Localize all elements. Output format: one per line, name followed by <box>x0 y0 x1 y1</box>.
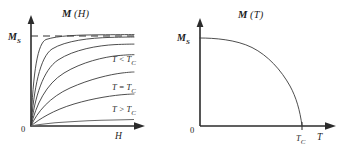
mt-x-axis-arrowhead <box>325 122 336 130</box>
mh-y-axis-arrowhead <box>28 15 35 24</box>
mh-curve-label-above-tc: T>TC <box>112 104 136 117</box>
mt-origin-label: 0 <box>190 125 194 135</box>
figure-container: M(H) MS 0 H T<TC T=TC T>TC <box>0 0 348 150</box>
mh-y-axis-label: MS <box>7 31 21 45</box>
mh-curve-label-below-tc: T<TC <box>112 54 136 67</box>
panel-mh: M(H) MS 0 H T<TC T=TC T>TC <box>7 8 145 141</box>
mt-plot-title: M(T) <box>237 9 264 21</box>
mh-curve-label-at-tc: T=TC <box>112 82 136 95</box>
mt-x-axis-label: T <box>317 132 323 142</box>
mh-curve-5 <box>31 72 134 126</box>
mt-y-axis-label: MS <box>176 32 190 46</box>
mt-y-axis-arrowhead <box>197 18 204 27</box>
mt-tc-tick-label: TC <box>296 133 306 146</box>
mh-curve-7 <box>31 120 134 127</box>
magnetization-figure-svg: M(H) MS 0 H T<TC T=TC T>TC <box>0 0 348 150</box>
mh-x-axis-label: H <box>114 131 123 141</box>
panel-mt: M(T) MS 0 TC T <box>176 9 336 146</box>
mt-curve <box>200 38 302 126</box>
mh-x-axis-arrowhead <box>134 122 145 130</box>
mh-plot-title: M(H) <box>61 8 90 20</box>
mh-origin-label: 0 <box>21 124 25 134</box>
